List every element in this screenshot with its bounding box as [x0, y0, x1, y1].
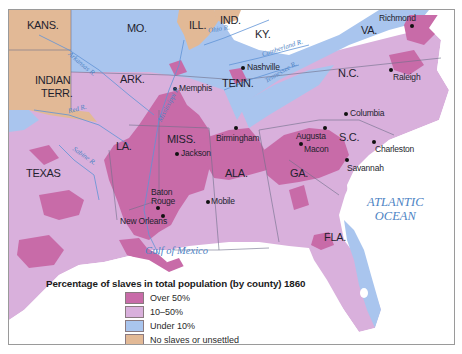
gulf-label: Gulf of Mexico: [145, 245, 208, 256]
state-label-nc: N.C.: [338, 67, 359, 79]
city-dot-macon: [299, 142, 303, 146]
legend-swatch-10-50: [125, 306, 144, 318]
city-label-augusta: Augusta: [296, 131, 326, 141]
city-dot-columbia: [344, 112, 348, 116]
state-label-mo: MO.: [127, 22, 147, 34]
legend: Percentage of slaves in total population…: [46, 278, 305, 289]
legend-swatch-no-slaves: [125, 334, 144, 346]
city-label-jackson: Jackson: [181, 148, 211, 158]
city-dot-birmingham: [234, 126, 238, 130]
city-label-birmingham: Birmingham: [216, 133, 259, 143]
legend-label-no-slaves: No slaves or unsettled: [150, 335, 239, 345]
map-frame: KANS. MO. ILL. IND. KY. VA. INDIAN TERR.…: [8, 9, 455, 345]
legend-item-no-slaves: No slaves or unsettled: [125, 333, 239, 345]
city-dot-jackson: [175, 152, 179, 156]
city-dot-augusta: [323, 126, 327, 130]
legend-swatch-over-50: [125, 292, 144, 304]
city-dot-savannah: [345, 158, 349, 162]
state-label-miss: MISS.: [167, 133, 195, 145]
legend-label-over-50: Over 50%: [150, 293, 190, 303]
state-label-va: VA.: [361, 24, 377, 36]
legend-label-10-50: 10–50%: [150, 307, 183, 317]
state-label-ark: ARK.: [120, 73, 144, 85]
city-dot-mobile: [206, 200, 210, 204]
city-dot-nashville: [241, 66, 245, 70]
city-dot-baton-rouge: [156, 206, 160, 210]
city-label-mobile: Mobile: [211, 196, 235, 206]
state-label-tenn: TENN.: [222, 77, 254, 89]
state-label-ky: KY.: [255, 28, 270, 40]
lake-okeechobee: [360, 288, 368, 298]
city-label-new-orleans: New Orleans: [120, 216, 167, 226]
city-label-savannah: Savannah: [347, 163, 384, 173]
ocean-label-line-1: ATLANTIC: [367, 195, 424, 209]
state-label-ga: GA.: [290, 167, 308, 179]
ocean-label-line-2: OCEAN: [367, 209, 424, 223]
city-label-columbia: Columbia: [350, 108, 384, 118]
legend-item-under-10: Under 10%: [125, 319, 195, 332]
city-label-macon: Macon: [304, 144, 329, 154]
legend-item-over-50: Over 50%: [125, 291, 190, 304]
state-label-ill: ILL.: [189, 19, 206, 31]
legend-item-10-50: 10–50%: [125, 305, 183, 318]
state-label-texas: TEXAS: [26, 167, 61, 179]
ocean-label-atlantic: ATLANTIC OCEAN: [367, 195, 424, 223]
city-dot-richmond: [410, 24, 414, 28]
state-label-sc: S.C.: [339, 131, 359, 143]
city-label-charleston: Charleston: [375, 144, 414, 154]
legend-title: Percentage of slaves in total population…: [46, 278, 305, 289]
state-label-kans: KANS.: [27, 19, 59, 31]
state-label-indian-terr-2: TERR.: [41, 87, 73, 99]
legend-swatch-under-10: [125, 320, 144, 332]
state-label-la: LA.: [116, 140, 132, 152]
city-label-memphis: Memphis: [179, 83, 212, 93]
city-label-raleigh: Raleigh: [393, 72, 420, 82]
city-label-richmond: Richmond: [379, 13, 416, 23]
state-label-indian-terr-1: INDIAN: [35, 74, 70, 86]
state-label-fla: FLA.: [324, 231, 346, 243]
city-label-baton-rouge-2: Rouge: [151, 196, 175, 206]
state-label-ala: ALA.: [225, 167, 248, 179]
legend-label-under-10: Under 10%: [150, 321, 195, 331]
